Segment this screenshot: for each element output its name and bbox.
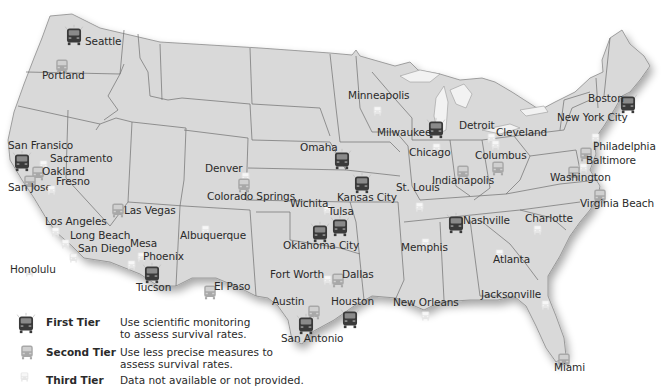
legend-first-tier-description: Use scientific monitoring to assess surv… (120, 316, 260, 340)
bus-icon-second-tier (19, 342, 35, 362)
city-label: Baltimore (586, 155, 636, 166)
city-label: Mesa (130, 238, 157, 249)
city-label: Tucson (136, 282, 171, 293)
city-label: Honolulu (10, 264, 56, 275)
bus-icon-third-tier (540, 295, 551, 314)
city-label: Long Beach (70, 230, 130, 241)
bus-icon-first-tier (330, 215, 350, 241)
city-label: Kansas City (337, 192, 397, 203)
bus-icon-first-tier (340, 307, 360, 333)
city-label: Charlotte (525, 213, 573, 224)
bus-icon-third-tier (414, 197, 425, 216)
city-label: Seattle (85, 36, 121, 47)
city-label: Milwaukee (377, 127, 431, 138)
city-label: Columbus (475, 150, 527, 161)
city-label: Tulsa (328, 206, 354, 217)
city-label: Colorado Springs (207, 191, 295, 202)
city-label: Nashville (463, 215, 510, 226)
city-label: Minneapolis (348, 90, 409, 101)
city-label: Cleveland (496, 127, 547, 138)
city-label: Las Vegas (124, 205, 176, 216)
city-label: Dallas (342, 269, 374, 280)
city-label: Los Angeles (45, 216, 107, 227)
us-landmass (8, 14, 650, 362)
city-label: Fresno (56, 176, 90, 187)
city-label: Sacramento (50, 153, 113, 164)
legend-third-tier-description: Data not available or not provided. (120, 374, 360, 386)
city-label: St. Louis (396, 182, 440, 193)
city-label: El Paso (214, 281, 250, 292)
city-label: Denver (205, 163, 243, 174)
city-label: Miami (554, 362, 585, 373)
city-label: Memphis (401, 242, 448, 253)
city-label: Jacksonville (481, 289, 541, 300)
city-label: Washington (550, 172, 611, 183)
legend-first-tier-label: First Tier (46, 316, 100, 328)
city-label: Indianapolis (432, 175, 494, 186)
city-label: New Orleans (393, 297, 459, 308)
city-label: Virginia Beach (580, 198, 654, 209)
legend-second-tier-label: Second Tier (46, 346, 116, 358)
city-label: San Fransico (8, 140, 73, 151)
bus-icon-first-tier (64, 24, 84, 50)
city-label: Albuquerque (180, 230, 246, 241)
city-label: Wichita (290, 198, 328, 209)
city-label: Austin (272, 296, 304, 307)
city-label: Detroit (459, 120, 495, 131)
city-label: San Diego (78, 243, 131, 254)
legend-second-tier-description: Use less precise measures to assess surv… (120, 346, 290, 370)
city-label: Omaha (300, 142, 338, 153)
bus-icon-first-tier (16, 312, 36, 336)
city-label: Boston (588, 93, 624, 104)
city-label: Philadelphia (593, 141, 656, 152)
city-label: San Antonio (281, 333, 343, 344)
bus-icon-third-tier (372, 101, 383, 120)
city-label: Oklahoma City (283, 240, 359, 251)
city-label: New York City (557, 112, 628, 123)
bus-icon-third-tier (126, 255, 137, 274)
city-label: Portland (42, 70, 85, 81)
city-label: Phoenix (143, 251, 184, 262)
city-label: Fort Worth (270, 269, 324, 280)
bus-icon-third-tier (420, 306, 431, 325)
city-label: Houston (331, 296, 374, 307)
city-label: Atlanta (493, 254, 530, 265)
bus-icon-third-tier (19, 370, 30, 384)
city-label: Chicago (409, 147, 451, 158)
legend-third-tier-label: Third Tier (46, 374, 104, 386)
